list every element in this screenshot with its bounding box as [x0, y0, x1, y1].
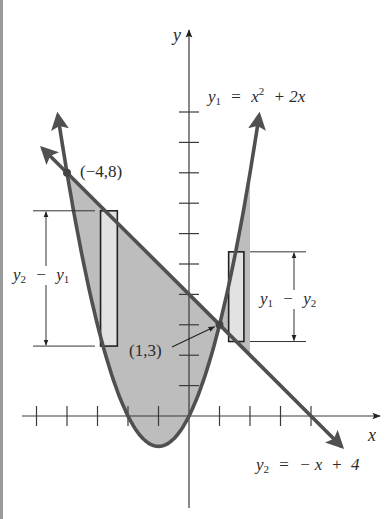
intersection-point	[216, 321, 224, 329]
parabola-equation-label: y1 = x2 + 2x	[208, 86, 305, 107]
left-rect-height-label: y2 − y1	[12, 266, 70, 285]
area-between-curves-diagram	[0, 0, 387, 519]
y-axis-label: y	[173, 26, 181, 44]
intersection-label-right: (1,3)	[129, 342, 162, 359]
x-axis-label: x	[368, 426, 376, 444]
right-rect	[229, 252, 244, 342]
line-equation-label: y2 = − x + 4	[256, 456, 359, 475]
right-rect-height-label: y1 − y2	[259, 290, 317, 309]
left-rect	[101, 211, 118, 346]
coordinate-axes	[22, 30, 380, 508]
intersection-label-left: (−4,8)	[80, 163, 122, 180]
left-region	[67, 173, 220, 447]
intersection-point	[63, 169, 71, 177]
